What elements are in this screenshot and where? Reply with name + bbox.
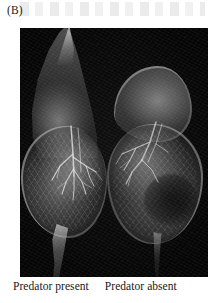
panel-label: (B) [7,4,23,16]
scan-artifact-strip [20,2,205,16]
branching-filaments-icon [112,120,180,206]
micrograph-plate [20,28,208,277]
caption-row: Predator present Predator absent [0,280,223,292]
branching-filaments-icon [44,124,106,208]
caption-predator-absent: Predator absent [105,280,177,292]
caption-predator-present: Predator present [13,280,89,292]
